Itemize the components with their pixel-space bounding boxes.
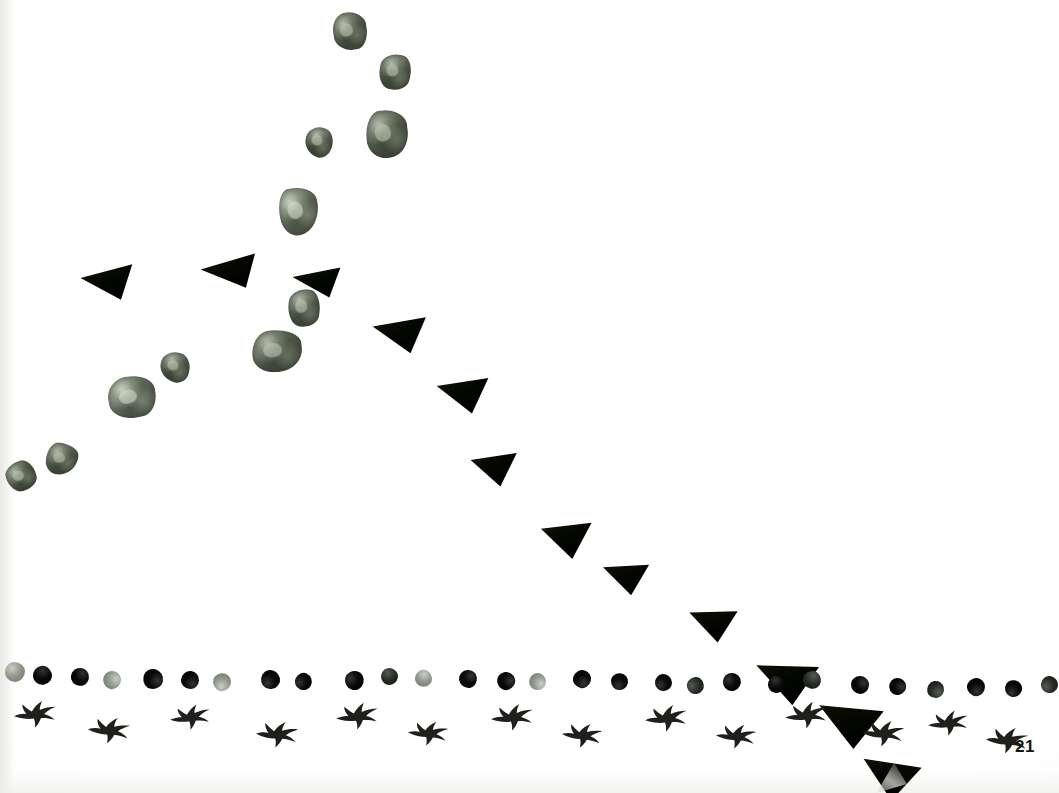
triangle-marker (285, 255, 345, 304)
stone-marker (156, 348, 193, 385)
dot-marker (180, 670, 200, 690)
dot-marker (29, 662, 56, 689)
triangle-marker (73, 252, 137, 306)
dot-marker (342, 668, 368, 694)
triangle-marker (426, 359, 493, 421)
stone-marker (375, 51, 415, 94)
dot-marker (209, 669, 234, 694)
dot-marker (5, 662, 25, 682)
dot-marker (139, 665, 167, 693)
bird-marker (488, 697, 536, 734)
stone-marker (251, 328, 304, 373)
bird-marker (642, 698, 690, 735)
dot-marker (1040, 675, 1059, 694)
dot-marker (571, 668, 593, 690)
dot-marker (494, 669, 519, 694)
stone-marker (44, 441, 80, 477)
triangle-marker (592, 543, 655, 603)
bird-marker (166, 698, 213, 734)
triangle-marker (195, 245, 260, 293)
stone-marker (274, 183, 323, 238)
bird-marker (253, 715, 301, 751)
dot-marker (100, 668, 123, 691)
dot-marker (886, 675, 910, 699)
triangle-marker (460, 434, 522, 493)
bird-marker (405, 715, 451, 750)
dot-marker (411, 666, 435, 690)
bird-marker (782, 695, 831, 733)
triangle-marker (529, 501, 597, 566)
dot-marker (684, 674, 708, 698)
bird-marker (713, 718, 759, 753)
stone-marker (105, 372, 160, 422)
bird-marker (859, 714, 907, 750)
dot-marker (1002, 677, 1025, 700)
dot-marker (925, 679, 945, 699)
stone-marker (301, 123, 338, 161)
dot-marker (608, 670, 632, 694)
dot-marker (964, 675, 988, 699)
triangle-marker (363, 300, 431, 361)
page-number: 21 (1015, 737, 1035, 757)
stone-marker (364, 108, 411, 160)
dot-marker (655, 674, 672, 691)
bird-marker (333, 696, 382, 734)
bird-marker (85, 710, 133, 747)
triangle-marker (677, 587, 743, 650)
dot-marker (259, 668, 281, 690)
stone-marker (331, 10, 370, 52)
book-page: 21 (0, 0, 1059, 793)
dot-marker (380, 667, 400, 687)
dot-marker (721, 671, 743, 693)
bird-marker (925, 704, 972, 740)
bird-marker (11, 694, 59, 731)
dot-marker (69, 666, 91, 688)
dot-marker (526, 670, 548, 692)
bird-marker (559, 716, 606, 752)
dot-marker (458, 669, 478, 689)
dot-marker (292, 670, 315, 693)
stone-marker (2, 457, 40, 495)
